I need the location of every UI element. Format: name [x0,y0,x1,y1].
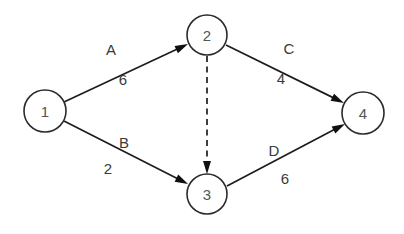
edge-label-c: C [284,40,295,57]
node-label-1: 1 [41,103,49,120]
edge-duration-c: 4 [277,70,285,87]
edge-group-dummy[interactable] [203,56,211,174]
node-label-4: 4 [359,105,367,122]
edge-duration-b: 2 [104,160,112,177]
arrowhead-b [175,175,188,184]
arrowhead-dummy [203,161,211,174]
node-4[interactable]: 4 [342,92,384,134]
edge-group-b[interactable] [64,121,188,184]
node-label-2: 2 [203,27,211,44]
edge-duration-d: 6 [281,170,289,187]
node-2[interactable]: 2 [187,15,227,55]
node-label-3: 3 [203,186,211,203]
node-3[interactable]: 3 [187,174,227,214]
edge-label-d: D [269,142,280,159]
edge-duration-a: 6 [119,71,127,88]
network-diagram-canvas: 1 2 3 4 A 6 C 4 B 2 D 6 [0,0,404,234]
arrowhead-c [331,94,344,103]
edge-label-a: A [106,41,116,58]
edge-label-b: B [119,134,129,151]
arrowhead-d [332,124,345,134]
arrowhead-a [175,44,188,53]
network-diagram-svg: 1 2 3 4 A 6 C 4 B 2 D 6 [0,0,404,234]
node-1[interactable]: 1 [24,90,66,132]
